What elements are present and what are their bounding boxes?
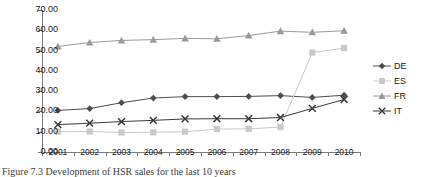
x-axis-tick-label: 2010 [326,148,362,157]
y-axis-tick-label: 10.00 [20,127,58,136]
x-axis-tick-label: 2006 [199,148,235,157]
chart-series-es [55,45,347,136]
series-data-point [150,95,157,102]
x-axis-tick-label: 2002 [72,148,108,157]
legend-marker-triangle-icon [372,90,392,102]
series-data-point [341,45,347,51]
y-axis-tick-label: 50.00 [20,46,58,55]
legend-item-de[interactable]: DE [372,58,424,73]
legend-marker-diamond-icon [372,60,392,72]
series-data-point [214,126,220,132]
legend-label: DE [392,61,407,71]
series-data-point [182,129,188,135]
series-data-point [118,99,125,106]
series-line [58,48,344,132]
figure-container: 0.0010.0020.0030.0040.0050.0060.0070.00 … [0,0,424,177]
series-data-point [277,124,283,130]
series-data-point [246,126,252,132]
chart-series-it [55,96,348,128]
series-data-point [182,93,189,100]
legend-item-it[interactable]: IT [372,103,424,118]
y-axis-tick-label: 30.00 [20,86,58,95]
chart-legend: DEESFRIT [372,58,424,118]
series-data-point [150,129,156,135]
chart-series-layer [42,10,360,152]
x-axis-tick-label: 2004 [135,148,171,157]
x-axis-tick-label: 2001 [40,148,76,157]
y-axis-tick-label: 40.00 [20,66,58,75]
x-axis-tick-label: 2003 [104,148,140,157]
series-data-point [340,27,348,34]
x-axis-tick-label: 2007 [231,148,267,157]
series-data-point [87,128,93,134]
x-axis-tick-label: 2008 [263,148,299,157]
y-axis-tick-label: 60.00 [20,25,58,34]
y-axis-tick-label: 20.00 [20,106,58,115]
series-data-point [118,129,124,135]
x-axis-tick-label: 2005 [167,148,203,157]
chart-plot-area [42,10,360,152]
series-data-point [309,94,316,101]
figure-caption: Figure 7.3 Development of HSR sales for … [2,166,422,177]
x-axis-tick-label: 2009 [294,148,330,157]
series-data-point [309,50,315,56]
legend-label: FR [392,91,406,101]
series-data-point [309,105,316,112]
series-line [58,99,344,124]
chart-series-fr [54,27,348,50]
series-data-point [277,92,284,99]
legend-marker-square-icon [372,75,392,87]
y-axis-tick-label: 70.00 [20,5,58,14]
legend-item-es[interactable]: ES [372,73,424,88]
series-data-point [86,105,93,112]
series-line [58,31,344,47]
legend-label: IT [392,106,402,116]
series-data-point [214,93,221,100]
series-data-point [245,93,252,100]
legend-item-fr[interactable]: FR [372,88,424,103]
legend-label: ES [392,76,406,86]
series-line [58,95,344,110]
legend-marker-cross-icon [372,105,392,117]
